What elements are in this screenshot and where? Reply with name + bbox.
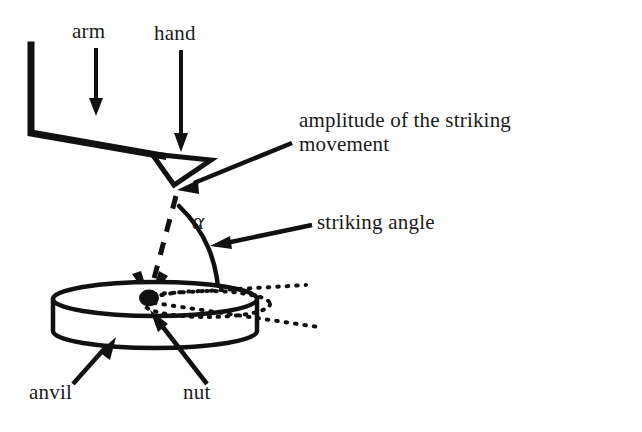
label-hand: hand [154,22,196,45]
label-alpha-symbol: α [192,209,204,235]
diagram-canvas: arm hand amplitude of the striking movem… [0,0,642,432]
striking-angle-pointer-arrow [210,225,312,249]
label-anvil: anvil [29,381,72,404]
label-arm: arm [72,20,105,43]
hand-pointer-arrow [174,50,188,152]
label-striking-angle: striking angle [317,211,435,234]
label-nut: nut [183,381,210,404]
arm-pointer-arrow [89,48,103,116]
label-amplitude: amplitude of the striking movement [299,108,534,156]
nut-dot [139,290,159,307]
